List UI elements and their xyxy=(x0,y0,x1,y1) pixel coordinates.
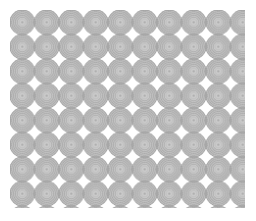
circle-grid-pattern-graphic xyxy=(0,0,256,221)
pattern-plate xyxy=(10,10,245,208)
pattern-canvas: Seamless light gray pattern of tangent c… xyxy=(0,0,256,221)
